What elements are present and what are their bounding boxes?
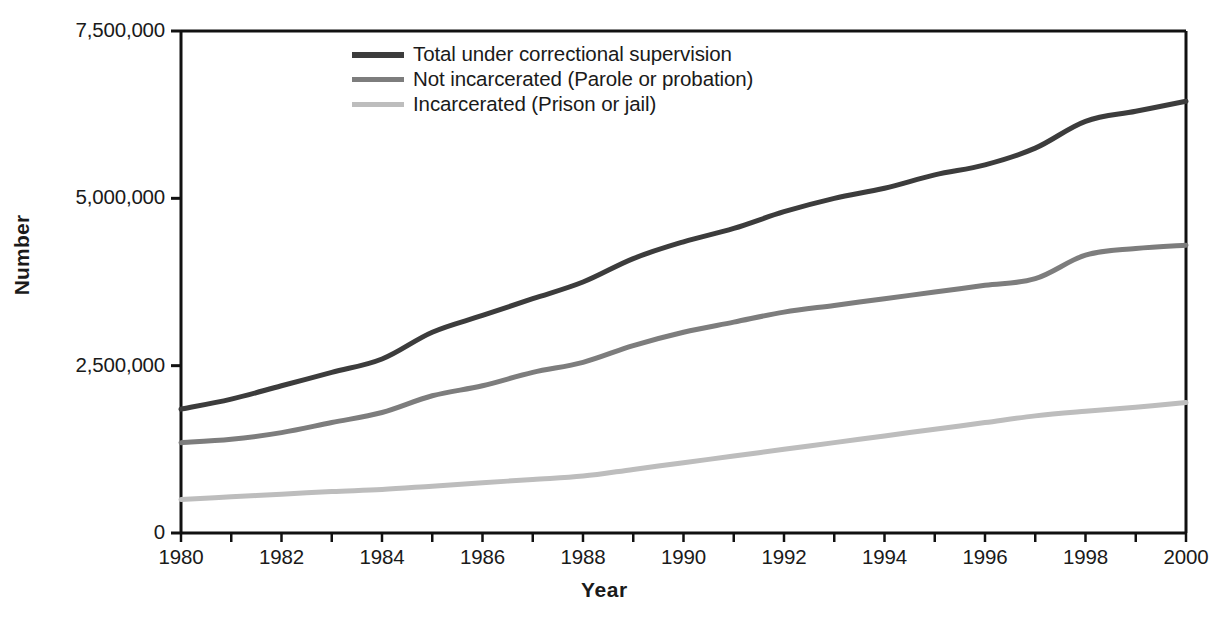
series-line bbox=[181, 245, 1186, 442]
legend-swatch-total-icon bbox=[352, 52, 404, 58]
x-axis-tick-label: 1986 bbox=[438, 545, 528, 569]
y-axis-tick-label: 2,500,000 bbox=[5, 353, 165, 377]
legend-item-not-incarcerated: Not incarcerated (Parole or probation) bbox=[352, 67, 753, 92]
legend-swatch-incarcerated-icon bbox=[352, 102, 404, 107]
legend-label-incarcerated: Incarcerated (Prison or jail) bbox=[413, 94, 656, 115]
y-axis-title: Number bbox=[10, 200, 34, 310]
x-axis-tick-label: 1982 bbox=[237, 545, 327, 569]
legend-swatch-not-incarcerated-icon bbox=[352, 77, 404, 82]
legend-item-total: Total under correctional supervision bbox=[352, 42, 753, 67]
y-axis-tick-label: 0 bbox=[5, 520, 165, 544]
y-axis-tick-label: 5,000,000 bbox=[5, 185, 165, 209]
x-axis-title: Year bbox=[581, 578, 628, 602]
legend-item-incarcerated: Incarcerated (Prison or jail) bbox=[352, 92, 753, 117]
x-axis-tick-label: 1996 bbox=[940, 545, 1030, 569]
x-axis-tick-label: 1990 bbox=[639, 545, 729, 569]
x-axis-tick-label: 1992 bbox=[739, 545, 829, 569]
chart-figure: Number Year 02,500,0005,000,0007,500,000… bbox=[0, 0, 1210, 622]
y-axis-tick-label: 7,500,000 bbox=[5, 18, 165, 42]
x-axis-tick-label: 1998 bbox=[1041, 545, 1131, 569]
legend-label-not-incarcerated: Not incarcerated (Parole or probation) bbox=[413, 69, 753, 90]
x-axis-tick-label: 1980 bbox=[136, 545, 226, 569]
legend-label-total: Total under correctional supervision bbox=[413, 44, 732, 65]
series-line bbox=[181, 101, 1186, 409]
x-axis-tick-label: 1988 bbox=[538, 545, 628, 569]
x-axis-tick-label: 2000 bbox=[1141, 545, 1210, 569]
x-axis-tick-label: 1994 bbox=[840, 545, 930, 569]
series-line bbox=[181, 402, 1186, 499]
x-axis-tick-label: 1984 bbox=[337, 545, 427, 569]
chart-legend: Total under correctional supervision Not… bbox=[352, 42, 753, 117]
